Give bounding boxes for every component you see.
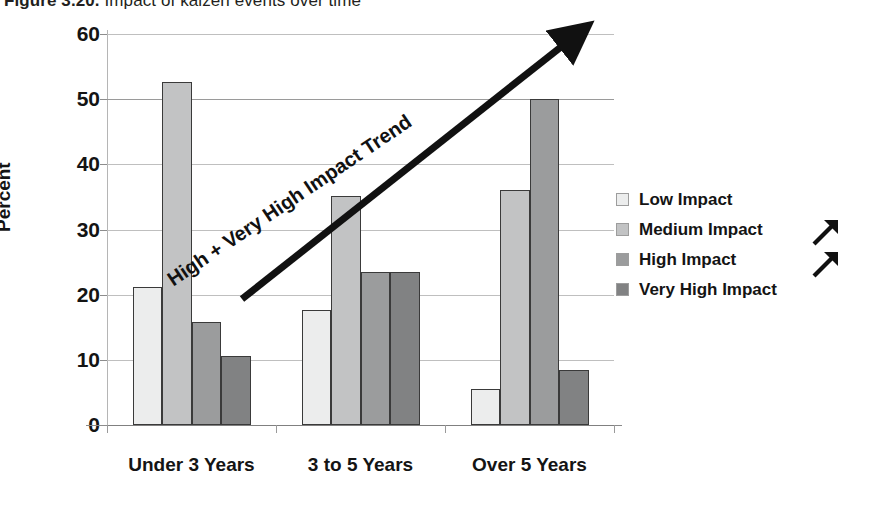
legend-item-label: Low Impact — [639, 190, 733, 210]
y-axis-tick-label: 50 — [16, 87, 100, 111]
plot-area — [107, 34, 614, 425]
legend-item-very-high-impact[interactable]: Very High Impact — [616, 276, 836, 303]
bar-high-impact-over-5-years — [530, 99, 560, 425]
x-axis-tick-mark — [107, 425, 108, 433]
legend-item-label: Medium Impact — [639, 220, 763, 240]
bar-chart: Percent 6050403020100 Under 3 Years3 to … — [0, 0, 874, 513]
x-axis-tick-label: Under 3 Years — [128, 454, 254, 476]
bar-low-impact-over-5-years — [471, 389, 501, 425]
legend-item-label: High Impact — [639, 250, 736, 270]
y-axis-tick-label: 20 — [16, 283, 100, 307]
legend-swatch-icon — [616, 193, 629, 206]
bar-very-high-impact-over-5-years — [559, 370, 589, 425]
corner-arrows-group — [812, 218, 856, 280]
bar-very-high-impact-3-to-5-years — [390, 272, 420, 425]
y-axis-tick-label: 10 — [16, 348, 100, 372]
bar-high-impact-under-3-years — [192, 322, 222, 425]
x-axis-tick-mark — [614, 425, 615, 433]
y-axis-tick-mark — [100, 295, 107, 296]
bar-high-impact-3-to-5-years — [361, 272, 391, 425]
y-axis-tick-mark — [100, 164, 107, 165]
y-axis-tick-label: 60 — [16, 22, 100, 46]
legend-item-label: Very High Impact — [639, 280, 777, 300]
y-axis-tick-mark — [100, 99, 107, 100]
bar-medium-impact-under-3-years — [162, 82, 192, 425]
y-axis-tick-mark — [100, 425, 107, 426]
y-axis-tick-mark — [100, 34, 107, 35]
legend-item-low-impact[interactable]: Low Impact — [616, 186, 836, 213]
x-axis-tick-mark — [276, 425, 277, 433]
y-axis-tick-label: 40 — [16, 152, 100, 176]
legend-swatch-icon — [616, 253, 629, 266]
legend-swatch-icon — [616, 283, 629, 296]
y-axis-tick-mark — [100, 360, 107, 361]
x-axis-tick-mark — [445, 425, 446, 433]
bar-medium-impact-3-to-5-years — [331, 196, 361, 425]
y-axis-labels: 6050403020100 — [8, 0, 100, 513]
gridline — [107, 425, 614, 426]
bar-low-impact-under-3-years — [133, 287, 163, 425]
chart-legend: Low ImpactMedium ImpactHigh ImpactVery H… — [616, 186, 836, 306]
bar-very-high-impact-under-3-years — [221, 356, 251, 425]
legend-swatch-icon — [616, 223, 629, 236]
y-axis-tick-label: 30 — [16, 218, 100, 242]
bar-medium-impact-over-5-years — [500, 190, 530, 425]
x-axis-tick-label: 3 to 5 Years — [308, 454, 413, 476]
x-axis-tick-label: Over 5 Years — [472, 454, 587, 476]
y-axis-tick-mark — [100, 230, 107, 231]
gridline — [107, 34, 614, 35]
legend-item-high-impact[interactable]: High Impact — [616, 246, 836, 273]
legend-item-medium-impact[interactable]: Medium Impact — [616, 216, 836, 243]
bar-low-impact-3-to-5-years — [302, 310, 332, 425]
